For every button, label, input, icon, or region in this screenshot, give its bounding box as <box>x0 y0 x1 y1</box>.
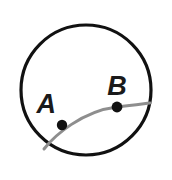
figure-background <box>0 0 172 180</box>
point-a-label: A <box>36 89 57 119</box>
point-b-dot <box>112 102 123 113</box>
geometry-figure: A B <box>0 0 172 180</box>
point-a-dot <box>57 120 67 130</box>
point-b-label: B <box>107 71 127 101</box>
geometry-canvas: A B <box>0 0 172 180</box>
